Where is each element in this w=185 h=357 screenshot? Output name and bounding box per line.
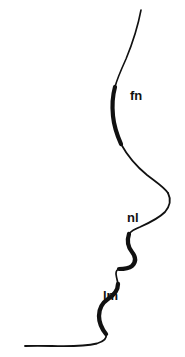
landmark-label-lm: lm: [103, 289, 118, 302]
nasal-dorsum-segment: [121, 144, 168, 193]
forehead-segment: [115, 10, 141, 87]
nasolabial-landmark-stroke: [119, 234, 135, 269]
landmark-label-nl: nl: [127, 211, 139, 224]
profile-outline-svg: [0, 0, 185, 357]
facial-profile-figure: fn nl lm: [0, 0, 185, 357]
chin-jawline-segment: [25, 334, 106, 346]
lip-transition-segment: [116, 269, 119, 284]
frontonasal-landmark-stroke: [113, 87, 121, 144]
landmark-label-fn: fn: [130, 89, 142, 102]
